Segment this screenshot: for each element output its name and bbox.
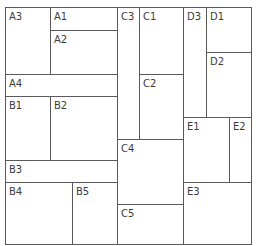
cell-d3: D3 xyxy=(183,7,207,118)
cell-label: E2 xyxy=(233,121,246,133)
cell-label: B2 xyxy=(54,100,67,112)
cell-d1: D1 xyxy=(206,7,252,53)
cell-b5: B5 xyxy=(72,182,118,245)
cell-label: D3 xyxy=(187,11,201,23)
cell-b4: B4 xyxy=(5,182,73,245)
cell-label: A4 xyxy=(9,78,22,90)
cell-a4: A4 xyxy=(5,74,118,97)
cell-label: A1 xyxy=(54,11,67,23)
cell-b3: B3 xyxy=(5,160,118,183)
cell-c5: C5 xyxy=(117,204,184,245)
cell-label: C4 xyxy=(121,143,134,155)
cell-c1: C1 xyxy=(139,7,184,75)
cell-label: E3 xyxy=(187,186,200,198)
cell-e1: E1 xyxy=(183,117,230,183)
cell-a2: A2 xyxy=(50,30,118,75)
cell-label: B1 xyxy=(9,100,22,112)
cell-label: A3 xyxy=(9,11,22,23)
cell-b2: B2 xyxy=(50,96,118,161)
cell-e2: E2 xyxy=(229,117,252,183)
cell-d2: D2 xyxy=(206,52,252,118)
cell-label: C1 xyxy=(143,11,156,23)
cell-a1: A1 xyxy=(50,7,118,31)
cell-label: B4 xyxy=(9,186,22,198)
cell-b1: B1 xyxy=(5,96,51,161)
cell-e3: E3 xyxy=(183,182,252,245)
cell-label: C2 xyxy=(143,78,156,90)
cell-c2: C2 xyxy=(139,74,184,140)
treemap-diagram: A3A1A2A4B1B2B3B4B5C3C1C2C4C5D3D1D2E1E2E3 xyxy=(0,0,256,246)
cell-label: C5 xyxy=(121,208,134,220)
cell-a3: A3 xyxy=(5,7,51,75)
cell-c4: C4 xyxy=(117,139,184,205)
cell-label: D1 xyxy=(210,11,224,23)
cell-label: D2 xyxy=(210,56,224,68)
cell-c3: C3 xyxy=(117,7,140,140)
cell-label: B5 xyxy=(76,186,89,198)
cell-label: B3 xyxy=(9,164,22,176)
cell-label: E1 xyxy=(187,121,200,133)
cell-label: C3 xyxy=(121,11,134,23)
cell-label: A2 xyxy=(54,34,67,46)
